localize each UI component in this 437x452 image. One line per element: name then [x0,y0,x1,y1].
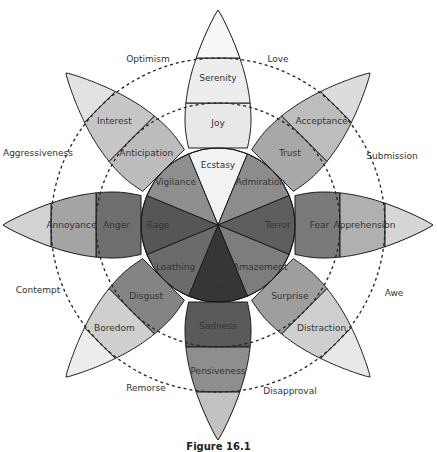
label-intense: Vigilance [155,177,196,187]
label-mild: Interest [97,116,132,126]
label-basic: Surprise [271,291,309,301]
label-basic: Disgust [129,291,163,301]
label-intense: Admiration [236,177,285,187]
label-mild: Distraction [297,323,346,333]
dyad-love: Love [267,54,289,64]
label-mild: Boredom [94,323,135,333]
label-intense: Terror [264,220,291,230]
label-intense: Loathing [156,262,195,272]
segment-tip [196,392,240,440]
label-basic: Sadness [199,321,237,331]
label-mild: Acceptance [295,116,348,126]
segment-tip [196,10,240,58]
label-basic: Fear [310,220,330,230]
label-basic: Anticipation [119,148,173,158]
label-intense: Grief [207,280,230,290]
label-mild: Pensiveness [190,366,245,376]
label-mild: Apprehension [334,220,396,230]
dyad-disapproval: Disapproval [263,386,316,396]
figure-caption: Figure 16.1 [0,441,437,452]
label-mild: Annoyance [46,220,97,230]
label-basic: Trust [278,148,301,158]
dyad-aggressiveness: Aggressiveness [3,148,73,158]
label-intense: Amazement [233,262,288,272]
dyad-awe: Awe [385,288,404,298]
dyad-remorse: Remorse [126,383,166,393]
label-intense: Ecstasy [201,160,236,170]
segment-tip [3,203,51,247]
label-mild: Serenity [199,73,237,83]
dyad-submission: Submission [366,151,418,161]
dyad-contempt: Contempt [16,285,61,295]
label-intense: Rage [147,220,170,230]
dyad-optimism: Optimism [126,54,170,64]
label-basic: Joy [210,118,225,128]
label-basic: Anger [103,220,130,230]
